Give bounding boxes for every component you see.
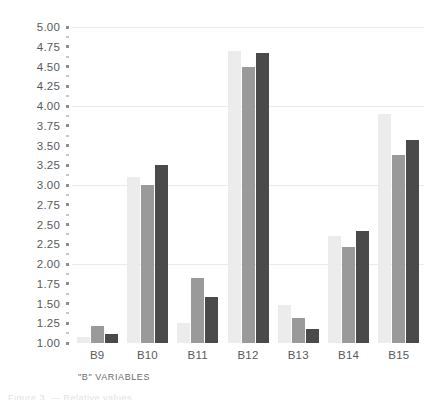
bar (356, 231, 369, 343)
y-axis-tick-mark (66, 85, 69, 88)
x-axis-title: "B" VARIABLES (78, 372, 150, 382)
y-axis-tick-label: 4.75 (37, 41, 60, 53)
bar (392, 155, 405, 343)
y-axis-tick: 1.00 (0, 336, 72, 350)
x-axis-category-label: B13 (288, 349, 309, 361)
y-axis-minor-tick (66, 194, 69, 196)
y-axis-tick-mark (66, 65, 69, 68)
bar-group (76, 27, 118, 343)
x-axis-labels: B9B10B11B12B13B14B15 (72, 349, 424, 365)
y-axis-tick-label: 1.00 (37, 337, 60, 349)
y-axis-tick: 3.00 (0, 178, 72, 192)
bar (205, 297, 218, 343)
y-axis-tick-label: 4.25 (37, 80, 60, 92)
y-axis-minor-tick (66, 332, 69, 334)
y-axis-tick-label: 2.00 (37, 258, 60, 270)
y-axis-minor-tick (66, 154, 69, 156)
y-axis-minor-tick (66, 95, 69, 97)
y-axis-minor-tick (66, 253, 69, 255)
y-axis-tick: 3.50 (0, 139, 72, 153)
y-axis-tick: 2.00 (0, 257, 72, 271)
y-axis-tick-label: 3.50 (37, 140, 60, 152)
bar-group (277, 27, 319, 343)
y-axis-tick: 1.50 (0, 297, 72, 311)
y-axis-tick-mark (66, 184, 69, 187)
y-axis-tick-mark (66, 26, 69, 29)
y-axis-tick: 4.00 (0, 99, 72, 113)
y-axis-minor-tick (66, 233, 69, 235)
y-axis-tick-label: 2.75 (37, 199, 60, 211)
y-axis-tick: 1.75 (0, 277, 72, 291)
x-axis-category-label: B15 (388, 349, 409, 361)
y-axis-minor-tick (66, 115, 69, 117)
y-axis-tick-mark (66, 322, 69, 325)
cropped-caption: Figure 3. — Relative values (8, 393, 308, 400)
y-axis-tick-label: 2.50 (37, 219, 60, 231)
x-axis-category-label: B14 (338, 349, 359, 361)
bar (342, 247, 355, 343)
y-axis-tick: 3.75 (0, 119, 72, 133)
bar (191, 278, 204, 343)
bar-group (227, 27, 269, 343)
bar-chart: 5.004.754.504.254.003.753.503.253.002.75… (0, 0, 440, 400)
y-axis-tick: 2.75 (0, 198, 72, 212)
y-axis-tick-label: 3.00 (37, 179, 60, 191)
bar (306, 329, 319, 343)
y-axis-tick: 2.25 (0, 237, 72, 251)
bar (406, 140, 419, 343)
y-axis-minor-tick (66, 75, 69, 77)
y-axis-tick-label: 2.25 (37, 238, 60, 250)
bar (105, 334, 118, 343)
y-axis-tick-mark (66, 263, 69, 266)
y-axis-minor-tick (66, 36, 69, 38)
y-axis-tick-label: 4.00 (37, 100, 60, 112)
x-axis-category-label: B9 (90, 349, 104, 361)
y-axis-minor-tick (66, 293, 69, 295)
y-axis-tick-mark (66, 342, 69, 345)
bar (141, 185, 154, 343)
y-axis-tick: 4.50 (0, 60, 72, 74)
y-axis-minor-tick (66, 135, 69, 137)
bar (378, 114, 391, 343)
y-axis-minor-tick (66, 56, 69, 58)
y-axis-tick-mark (66, 45, 69, 48)
y-axis-tick: 2.50 (0, 218, 72, 232)
y-axis-tick-mark (66, 164, 69, 167)
bar (292, 318, 305, 343)
bar (242, 67, 255, 344)
bar (278, 305, 291, 343)
y-axis: 5.004.754.504.254.003.753.503.253.002.75… (0, 0, 72, 400)
y-axis-tick-label: 4.50 (37, 61, 60, 73)
y-axis-minor-tick (66, 312, 69, 314)
y-axis-minor-tick (66, 174, 69, 176)
bar-group (378, 27, 420, 343)
bar (91, 326, 104, 343)
y-axis-minor-tick (66, 273, 69, 275)
y-axis-tick-label: 1.25 (37, 317, 60, 329)
y-axis-tick: 3.25 (0, 158, 72, 172)
y-axis-tick-label: 1.50 (37, 298, 60, 310)
y-axis-tick-mark (66, 203, 69, 206)
plot-area (72, 27, 424, 343)
y-axis-tick-mark (66, 302, 69, 305)
bar-group (177, 27, 219, 343)
y-axis-tick-mark (66, 243, 69, 246)
y-axis-tick: 5.00 (0, 20, 72, 34)
bar-group (328, 27, 370, 343)
y-axis-tick-label: 5.00 (37, 21, 60, 33)
x-axis-category-label: B11 (188, 349, 208, 361)
y-axis-tick-mark (66, 223, 69, 226)
y-axis-tick-mark (66, 282, 69, 285)
y-axis-tick: 4.75 (0, 40, 72, 54)
bar (177, 323, 190, 343)
y-axis-tick-label: 3.75 (37, 120, 60, 132)
y-axis-tick-label: 1.75 (37, 278, 60, 290)
x-axis-category-label: B12 (237, 349, 258, 361)
bar (256, 53, 269, 343)
y-axis-tick-mark (66, 105, 69, 108)
bar (77, 337, 90, 343)
bar (228, 51, 241, 343)
y-axis-tick-mark (66, 124, 69, 127)
bar (155, 165, 168, 343)
y-axis-tick: 4.25 (0, 79, 72, 93)
